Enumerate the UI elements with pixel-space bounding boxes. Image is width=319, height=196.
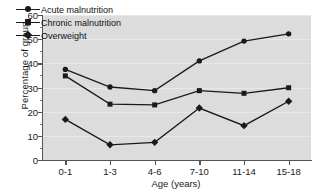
series-line [65, 76, 288, 105]
legend-symbol [25, 19, 31, 25]
legend-symbol [23, 31, 31, 39]
data-point-square [63, 73, 68, 78]
data-point-diamond [285, 98, 292, 105]
series-line [65, 34, 288, 91]
legend-item: Acute malnutrition [15, 3, 121, 16]
data-point-diamond [106, 141, 113, 148]
data-point-circle [152, 88, 157, 93]
legend-item: Chronic malnutrition [15, 16, 121, 29]
data-point-square [152, 102, 157, 107]
data-point-diamond [62, 116, 69, 123]
legend-marker-diamond-icon [15, 29, 41, 42]
series-overweight [62, 98, 293, 149]
legend-label: Overweight [41, 31, 87, 41]
chart-figure: Percentage of group 0102030405060 0-11-3… [0, 0, 319, 196]
data-point-square [197, 88, 202, 93]
data-point-square [242, 91, 247, 96]
data-point-circle [197, 58, 202, 63]
data-point-diamond [240, 122, 247, 129]
legend-item: Overweight [15, 29, 121, 42]
data-point-circle [63, 67, 68, 72]
legend-symbol [25, 6, 31, 12]
series-line [65, 101, 288, 145]
legend-marker-circle-icon [15, 3, 41, 16]
data-point-circle [107, 84, 112, 89]
data-point-square [108, 102, 113, 107]
data-point-square [286, 85, 291, 90]
legend-label: Chronic malnutrition [41, 18, 121, 28]
x-axis-title: Age (years) [40, 178, 312, 189]
series-chronic-malnutrition [63, 73, 291, 107]
data-point-circle [241, 38, 246, 43]
data-point-circle [286, 31, 291, 36]
chart-legend: Acute malnutritionChronic malnutritionOv… [15, 3, 121, 42]
legend-marker-square-icon [15, 16, 41, 29]
legend-label: Acute malnutrition [41, 5, 113, 15]
